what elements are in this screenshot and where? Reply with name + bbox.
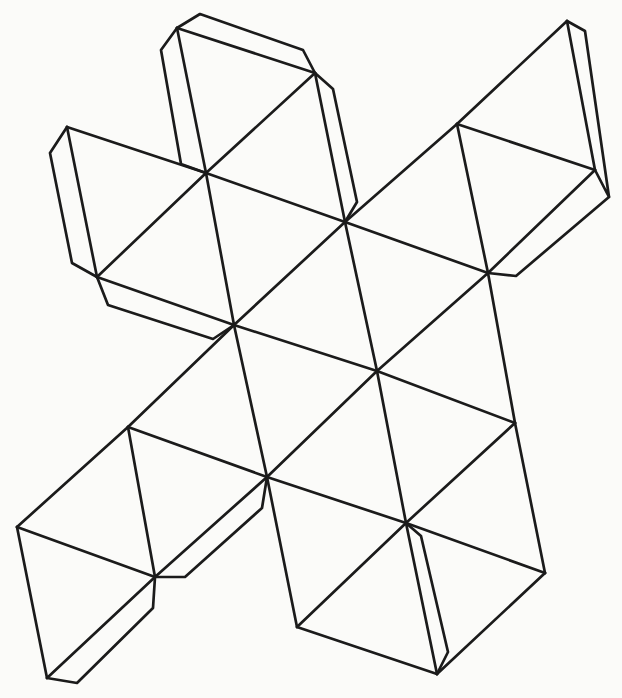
tab-left-edge-AJ1 xyxy=(161,28,206,173)
net-edge-N-M xyxy=(297,627,437,674)
net-edge-D-J1 xyxy=(97,173,206,277)
net-edge-D-J4 xyxy=(97,277,234,325)
tab-edge-J7M xyxy=(406,523,448,674)
net-edge-I-Pj xyxy=(17,527,47,678)
net-edge-J5-J7 xyxy=(267,477,406,523)
net-edge-K-J7 xyxy=(406,423,515,523)
net-edge-K-L xyxy=(515,423,545,573)
net-edge-J3-K xyxy=(488,273,515,423)
net-edge-J2-J4 xyxy=(234,222,345,325)
scanned-figure-page xyxy=(0,0,622,698)
net-edge-J6-J7 xyxy=(377,371,406,523)
net-edge-J7-M xyxy=(406,523,437,674)
tab-edge-DJ4 xyxy=(97,277,234,339)
net-edge-H-I xyxy=(17,427,128,527)
net-edge-J3-J6 xyxy=(377,273,488,371)
net-edge-E-G xyxy=(457,124,595,170)
net-edge-J5-H xyxy=(128,427,267,477)
net-edge-J1-J4 xyxy=(206,173,234,325)
net-edge-I-J8 xyxy=(17,527,155,577)
net-edge-J1-J2 xyxy=(206,173,345,222)
net-edge-J2-J3 xyxy=(345,222,488,273)
net-edge-J5-N xyxy=(267,477,297,627)
net-edge-J2-E xyxy=(345,124,457,222)
icosahedron-net-diagram xyxy=(0,0,622,698)
net-edge-J7-N xyxy=(297,523,406,627)
net-edge-J2-J6 xyxy=(345,222,377,371)
net-edge-B-J2 xyxy=(315,73,345,222)
net-edge-J4-J5 xyxy=(234,325,267,477)
net-edge-B-J1 xyxy=(206,73,315,173)
tab-edge-BJ2 xyxy=(315,73,357,222)
net-edge-A-B xyxy=(177,28,315,73)
net-edge-F-G xyxy=(567,21,595,170)
tab-top-edge-AB xyxy=(177,14,315,73)
tab-edge-GJ3 xyxy=(488,197,609,276)
net-edge-J5-J6 xyxy=(267,371,377,477)
net-edge-J4-H xyxy=(128,325,234,427)
tab-left-edge-CD xyxy=(50,127,97,277)
net-edge-J4-J6 xyxy=(234,325,377,371)
net-edge-L-M xyxy=(437,573,545,674)
net-edge-E-J3 xyxy=(457,124,488,273)
net-edge-J8-Pj xyxy=(47,577,155,678)
net-edge-J6-K xyxy=(377,371,515,423)
net-edge-J5-J8 xyxy=(155,477,267,577)
net-edge-E-F xyxy=(457,21,567,124)
net-edge-H-J8 xyxy=(128,427,155,577)
net-edge-A-J1 xyxy=(177,28,206,173)
